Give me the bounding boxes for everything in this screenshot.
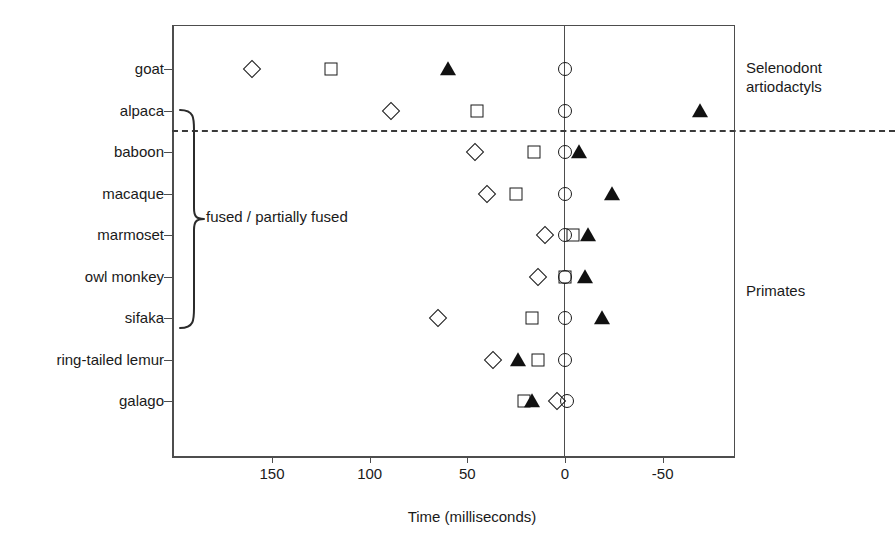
data-point-open-circle <box>558 270 572 284</box>
category-tick <box>164 277 172 278</box>
category-tick <box>164 360 172 361</box>
plot-top-border <box>172 25 735 26</box>
x-tick <box>565 456 566 463</box>
data-point-open-square <box>471 104 484 117</box>
category-label-alpaca: alpaca <box>4 103 164 118</box>
plot-right-border <box>734 25 735 456</box>
category-label-galago: galago <box>4 393 164 408</box>
data-point-open-diamond <box>382 101 400 119</box>
data-point-filled-triangle <box>510 352 526 366</box>
data-point-open-diamond <box>536 226 554 244</box>
category-tick <box>164 401 172 402</box>
x-tick-label: 50 <box>437 466 497 482</box>
data-point-open-diamond <box>466 143 484 161</box>
data-point-filled-triangle <box>440 61 456 75</box>
data-point-open-circle <box>558 104 572 118</box>
data-point-filled-triangle <box>580 227 596 241</box>
data-point-open-square <box>525 312 538 325</box>
data-point-open-diamond <box>478 184 496 202</box>
fused-brace-label: fused / partially fused <box>206 208 348 225</box>
data-point-open-square <box>324 63 337 76</box>
group-divider-dashed-line <box>172 130 895 132</box>
group-label-primates: Primates <box>746 281 805 300</box>
category-label-sifaka: sifaka <box>4 310 164 325</box>
x-tick <box>467 456 468 463</box>
data-point-open-circle <box>558 228 572 242</box>
data-point-filled-triangle <box>524 393 540 407</box>
x-tick <box>663 456 664 463</box>
chart-canvas: goatalpacababoonmacaquemarmosetowl monke… <box>0 0 895 546</box>
x-tick <box>272 456 273 463</box>
category-label-goat: goat <box>4 61 164 76</box>
data-point-open-diamond <box>528 267 546 285</box>
x-axis-title: Time (milliseconds) <box>272 508 672 525</box>
data-point-filled-triangle <box>571 144 587 158</box>
x-tick-label: -50 <box>633 466 693 482</box>
data-point-open-diamond <box>429 309 447 327</box>
data-point-open-diamond <box>484 350 502 368</box>
x-tick-label: 0 <box>535 466 595 482</box>
category-label-macaque: macaque <box>4 186 164 201</box>
category-label-marmoset: marmoset <box>4 227 164 242</box>
data-point-open-square <box>510 187 523 200</box>
data-point-filled-triangle <box>692 103 708 117</box>
x-tick-label: 150 <box>242 466 302 482</box>
category-tick <box>164 194 172 195</box>
data-point-filled-triangle <box>594 310 610 324</box>
x-tick-label: 100 <box>340 466 400 482</box>
group-label-selenodont: Selenodont artiodactyls <box>746 58 822 96</box>
data-point-open-circle <box>558 62 572 76</box>
data-point-open-square <box>531 353 544 366</box>
y-axis-line <box>172 25 174 458</box>
category-tick <box>164 235 172 236</box>
x-axis-line <box>172 456 735 458</box>
data-point-filled-triangle <box>604 186 620 200</box>
category-label-baboon: baboon <box>4 144 164 159</box>
data-point-open-circle <box>558 311 572 325</box>
data-point-open-circle <box>558 353 572 367</box>
data-point-open-square <box>527 146 540 159</box>
category-label-owl-monkey: owl monkey <box>4 269 164 284</box>
data-point-filled-triangle <box>577 269 593 283</box>
data-point-open-diamond <box>243 60 261 78</box>
category-tick <box>164 69 172 70</box>
category-tick <box>164 318 172 319</box>
category-tick <box>164 152 172 153</box>
category-label-ring-tailed-lemur: ring-tailed lemur <box>4 352 164 367</box>
category-tick <box>164 111 172 112</box>
data-point-open-circle <box>558 187 572 201</box>
x-tick <box>370 456 371 463</box>
